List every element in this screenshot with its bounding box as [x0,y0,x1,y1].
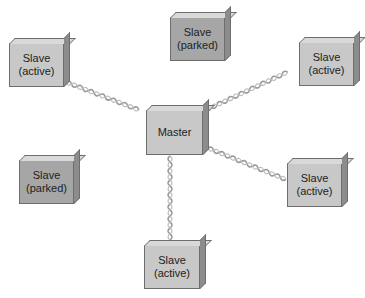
node-label-line2: (active) [308,64,344,77]
node-slave-mid-left: Slave (parked) [19,160,74,204]
node-label-line1: Slave [158,254,186,267]
node-label-line1: Slave [313,51,341,64]
node-slave-top-right: Slave (active) [299,42,354,86]
node-label-line2: (active) [18,65,54,78]
node-label-line1: Slave [23,52,51,65]
node-slave-mid-right: Slave (active) [287,163,342,207]
node-label-line2: (parked) [177,39,218,52]
node-label-line1: Slave [33,169,61,182]
node-slave-top-left: Slave (active) [9,43,64,87]
node-slave-bottom: Slave (active) [144,245,200,289]
node-label-line2: (active) [296,185,332,198]
node-label-line1: Slave [301,172,329,185]
node-slave-top-center: Slave (parked) [170,17,225,61]
node-label-master: Master [158,126,192,139]
node-label-line1: Slave [184,26,212,39]
node-master: Master [146,110,203,155]
node-label-line2: (parked) [26,182,67,195]
node-label-line2: (active) [154,267,190,280]
